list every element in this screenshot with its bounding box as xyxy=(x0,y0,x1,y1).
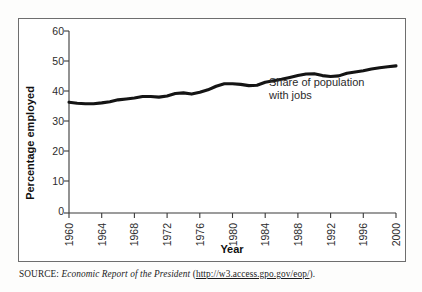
x-tick-label-1984: 1984 xyxy=(259,223,271,247)
x-tick-label-1960: 1960 xyxy=(63,223,75,247)
x-tick-label-1996: 1996 xyxy=(357,223,369,247)
y-tick-label-60: 60 xyxy=(52,25,64,37)
y-tick-label-50: 50 xyxy=(52,55,64,67)
x-tick-label-2000: 2000 xyxy=(390,223,402,247)
x-tick-label-1992: 1992 xyxy=(325,223,337,247)
source-title: Economic Report of the President xyxy=(61,269,190,279)
x-axis-label: Year xyxy=(220,243,244,255)
annotation-share-of-population-line1: Share of population xyxy=(269,76,364,88)
x-tick-label-1968: 1968 xyxy=(128,223,140,247)
x-tick-label-1964: 1964 xyxy=(96,223,108,247)
x-tick-label-1976: 1976 xyxy=(194,223,206,247)
source-prefix: SOURCE: xyxy=(19,269,59,279)
annotation-share-of-population-line2: with jobs xyxy=(268,89,312,101)
x-tick-label-1972: 1972 xyxy=(161,223,173,247)
y-tick-label-30: 30 xyxy=(52,115,64,127)
source-url-link[interactable]: http://w3.access.gpo.gov/eop/ xyxy=(196,269,310,279)
figure-container: Percentage employed 60 50 40 30 20 10 0 xyxy=(0,0,422,292)
x-tick-label-1988: 1988 xyxy=(292,223,304,247)
y-tick-label-20: 20 xyxy=(52,145,64,157)
y-tick-label-40: 40 xyxy=(52,85,64,97)
y-tick-label-10: 10 xyxy=(52,175,64,187)
source-paren-close: ). xyxy=(310,269,316,279)
source-caption: SOURCE: Economic Report of the President… xyxy=(19,269,411,279)
y-tick-label-0: 0 xyxy=(58,205,64,217)
y-axis-label: Percentage employed xyxy=(24,86,36,200)
employment-rate-line-chart: Percentage employed 60 50 40 30 20 10 0 xyxy=(18,18,406,262)
